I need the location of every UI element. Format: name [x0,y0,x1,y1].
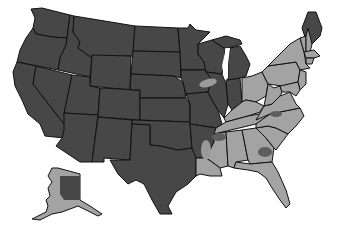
state-ct[interactable] [306,58,314,64]
state-fl[interactable] [234,162,290,208]
patch-nc-dark [270,111,282,117]
us-choropleth-map [0,0,339,230]
state-nm[interactable] [92,117,132,162]
state-wy[interactable] [90,55,131,90]
state-mi[interactable] [228,46,250,80]
patch-mississippi-dark [212,133,226,141]
alaska-dark-patch [60,176,80,200]
patch-georgia-dark [258,147,272,157]
state-ma[interactable] [304,50,320,58]
state-co[interactable] [98,88,140,120]
patch-arkansas-light [201,140,211,160]
state-nd[interactable] [133,26,180,52]
state-ks[interactable] [140,98,190,122]
state-wa[interactable] [31,8,70,38]
